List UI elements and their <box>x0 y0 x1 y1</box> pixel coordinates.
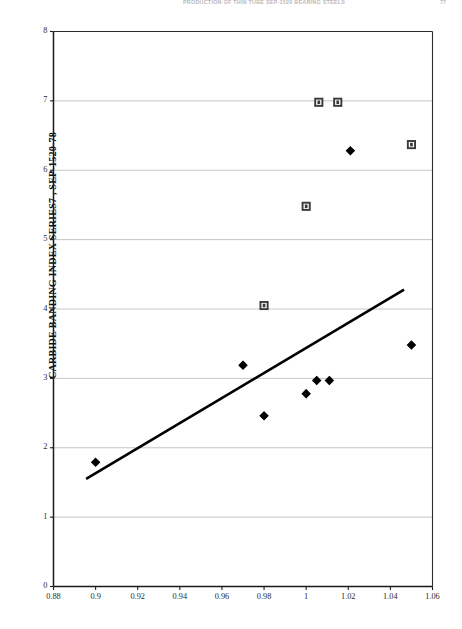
x-tick-label-0.92: 0.92 <box>122 592 154 601</box>
trend-line-group <box>86 290 404 479</box>
data-point-0-3 <box>302 390 310 398</box>
gridlines-group <box>54 101 433 517</box>
y-tick-label-8: 8 <box>26 26 48 35</box>
data-point-0-2 <box>260 412 268 420</box>
y-tick-label-3: 3 <box>26 373 48 382</box>
scatter-chart-figure: CARBIDE BANDING INDEX SERIES7 , SEP-1520… <box>0 0 462 629</box>
y-tick-label-0: 0 <box>26 581 48 590</box>
x-tick-label-0.88: 0.88 <box>38 592 70 601</box>
data-point-1-1 <box>305 205 308 209</box>
data-point-1-2 <box>317 100 320 104</box>
y-tick-label-4: 4 <box>26 304 48 313</box>
x-tick-label-1.02: 1.02 <box>332 592 364 601</box>
y-tick-label-2: 2 <box>26 442 48 451</box>
data-markers-group <box>92 99 416 467</box>
axis-tick-marks <box>50 32 433 591</box>
y-tick-label-6: 6 <box>26 165 48 174</box>
data-point-0-4 <box>313 376 321 384</box>
x-tick-label-0.9: 0.9 <box>80 592 112 601</box>
data-point-1-0 <box>263 304 266 308</box>
x-tick-label-0.96: 0.96 <box>206 592 238 601</box>
data-point-1-3 <box>336 100 339 104</box>
data-point-0-6 <box>346 147 354 155</box>
data-point-0-0 <box>92 458 100 466</box>
y-tick-label-5: 5 <box>26 234 48 243</box>
x-tick-label-1: 1 <box>290 592 322 601</box>
data-point-0-5 <box>325 376 333 384</box>
y-tick-label-1: 1 <box>26 512 48 521</box>
x-tick-label-0.98: 0.98 <box>248 592 280 601</box>
data-point-0-1 <box>239 361 247 369</box>
plot-canvas <box>0 0 462 629</box>
x-tick-label-1.04: 1.04 <box>374 592 406 601</box>
data-point-1-4 <box>410 143 413 147</box>
x-tick-label-1.06: 1.06 <box>417 592 449 601</box>
data-point-0-7 <box>407 341 415 349</box>
x-tick-label-0.94: 0.94 <box>164 592 196 601</box>
y-tick-label-7: 7 <box>26 95 48 104</box>
